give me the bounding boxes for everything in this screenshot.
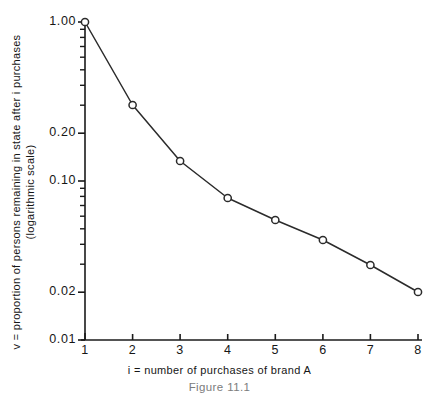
y-tick-label: 0.02 (49, 285, 76, 298)
x-tick-label: 6 (311, 344, 335, 357)
data-point (414, 288, 421, 295)
figure-caption: Figure 11.1 (0, 381, 439, 398)
data-point (129, 101, 136, 108)
y-tick-label: 0.10 (49, 174, 76, 187)
data-point (272, 216, 279, 223)
x-tick-label: 2 (121, 344, 145, 357)
figure-container: 1.00 0.20 0.10 0.02 0.01 1 2 3 4 5 6 7 8… (0, 0, 439, 398)
data-point-markers (81, 18, 421, 295)
x-tick-label: 7 (358, 344, 382, 357)
x-tick-label: 5 (263, 344, 287, 357)
data-point (367, 261, 374, 268)
y-axis-title: v = proportion of persons remaining in s… (9, 27, 37, 357)
data-point (177, 157, 184, 164)
x-tick-label: 8 (406, 344, 430, 357)
data-point (319, 236, 326, 243)
x-tick-label: 3 (168, 344, 192, 357)
x-tick-label: 4 (216, 344, 240, 357)
y-tick-label: 0.20 (49, 126, 76, 139)
y-tick-label: 1.00 (49, 15, 76, 28)
data-point (224, 194, 231, 201)
x-ticks (85, 333, 418, 340)
data-point (81, 18, 88, 25)
x-axis-tick-labels: 1 2 3 4 5 6 7 8 (0, 344, 439, 364)
x-tick-label: 1 (73, 344, 97, 357)
axis-lines (81, 18, 422, 340)
data-series-line (85, 22, 418, 292)
y-axis-title-line-1: v = proportion of persons remaining in s… (10, 35, 22, 350)
y-axis-title-line-2: (logarithmic scale) (23, 27, 37, 357)
x-axis-title: i = number of purchases of brand A (0, 364, 439, 376)
